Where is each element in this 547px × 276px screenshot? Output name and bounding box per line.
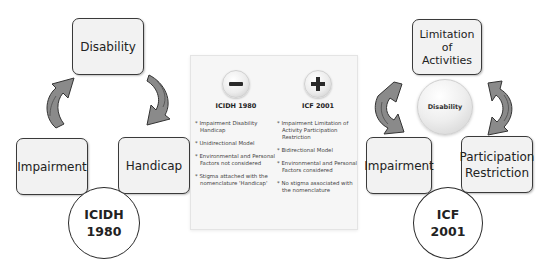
icf-limitation-line2: of bbox=[442, 41, 453, 54]
curved-arrow-up-icon bbox=[42, 74, 78, 130]
curved-arrow-down-icon bbox=[143, 73, 179, 129]
icf-column-title: ICF 2001 bbox=[277, 102, 359, 110]
list-item: * Impairment Limitation of Activity Part… bbox=[277, 120, 359, 141]
icf-column: ICF 2001 * Impairment Limitation of Acti… bbox=[277, 62, 359, 200]
icf-participation-line2: Restriction bbox=[465, 165, 529, 181]
list-item: * Environmental and Personal Factors con… bbox=[277, 160, 359, 174]
icidh-disability-box: Disability bbox=[72, 18, 144, 75]
icidh-handicap-box: Handicap bbox=[118, 137, 190, 194]
icf-points-list: * Impairment Limitation of Activity Part… bbox=[277, 120, 359, 194]
icidh-impairment-label: Impairment bbox=[17, 159, 87, 175]
icf-disability-label: Disability bbox=[428, 103, 463, 111]
comparison-panel: ICIDH 1980 * Impairment Disability Handi… bbox=[190, 55, 358, 230]
list-item: * Unidirectional Model bbox=[195, 140, 277, 147]
list-item: * Environmental and Personal Factors not… bbox=[195, 153, 277, 167]
icidh-column-title: ICIDH 1980 bbox=[195, 102, 277, 110]
icidh-handicap-label: Handicap bbox=[126, 158, 183, 174]
icf-limitation-line1: Limitation bbox=[419, 28, 474, 41]
icf-2001-circle: ICF 2001 bbox=[413, 187, 483, 259]
icf-impairment-box: Impairment bbox=[366, 137, 432, 194]
icidh-circle-line1: ICIDH bbox=[84, 206, 123, 223]
icf-disability-ball: Disability bbox=[417, 79, 473, 135]
icf-limitation-line3: Activities bbox=[422, 54, 472, 67]
icidh-disability-label: Disability bbox=[80, 39, 136, 55]
plus-icon bbox=[304, 70, 332, 98]
list-item: * No stigma associated with the nomencla… bbox=[277, 180, 359, 194]
icf-circle-line2: 2001 bbox=[431, 223, 466, 240]
curved-arrow-right-down-icon bbox=[484, 79, 518, 139]
icidh-circle-line2: 1980 bbox=[87, 223, 122, 240]
icf-participation-box: Participation Restriction bbox=[461, 136, 533, 193]
icidh-points-list: * Impairment Disability Handicap * Unidi… bbox=[195, 120, 277, 187]
icf-participation-line1: Participation bbox=[460, 149, 535, 165]
list-item: * Stigma attached with the nomenclature … bbox=[195, 173, 277, 187]
icf-limitation-box: Limitation of Activities bbox=[412, 19, 482, 75]
icf-circle-line1: ICF bbox=[437, 206, 459, 223]
list-item: * Impairment Disability Handicap bbox=[195, 120, 277, 134]
list-item: * Bidirectional Model bbox=[277, 147, 359, 154]
curved-arrow-left-down-icon bbox=[372, 80, 406, 138]
icf-impairment-label: Impairment bbox=[364, 158, 434, 174]
icidh-1980-circle: ICIDH 1980 bbox=[68, 187, 140, 259]
icidh-impairment-box: Impairment bbox=[16, 138, 88, 195]
icidh-column: ICIDH 1980 * Impairment Disability Handi… bbox=[195, 62, 277, 193]
minus-icon bbox=[222, 70, 250, 98]
